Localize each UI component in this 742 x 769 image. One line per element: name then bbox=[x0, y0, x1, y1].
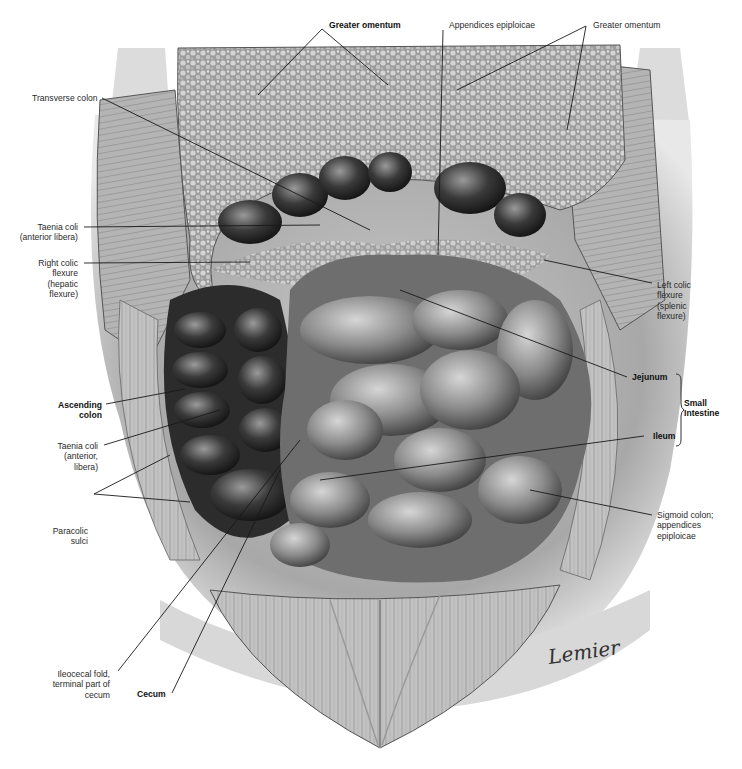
small-intestine bbox=[270, 254, 591, 582]
label-taenia-coli-mid: Taenia coli (anterior, libera) bbox=[57, 441, 98, 472]
label-greater-omentum-right: Greater omentum bbox=[593, 20, 660, 30]
label-jejunum: Jejunum bbox=[632, 372, 667, 382]
label-greater-omentum-left: Greater omentum bbox=[329, 20, 401, 30]
label-taenia-coli-top: Taenia coli (anterior libera) bbox=[20, 222, 78, 243]
label-sigmoid-colon: Sigmoid colon; appendices epiploicae bbox=[657, 510, 713, 541]
label-right-colic-flexure: Right colic flexure (hepatic flexure) bbox=[38, 258, 78, 300]
label-paracolic-sulci: Paracolic sulci bbox=[53, 526, 88, 547]
label-ileocecal-fold: Ileocecal fold, terminal part of cecum bbox=[53, 669, 110, 700]
label-ascending-colon: Ascending colon bbox=[58, 400, 102, 421]
label-ileum: Ileum bbox=[653, 431, 675, 441]
label-cecum: Cecum bbox=[137, 689, 166, 699]
label-appendices-epiploicae: Appendices epiploicae bbox=[449, 20, 535, 30]
anatomical-illustration bbox=[0, 0, 742, 769]
label-small-intestine: Small Intestine bbox=[684, 398, 719, 419]
label-left-colic-flexure: Left colic flexure (splenic flexure) bbox=[657, 280, 691, 322]
label-transverse-colon: Transverse colon bbox=[32, 93, 98, 103]
